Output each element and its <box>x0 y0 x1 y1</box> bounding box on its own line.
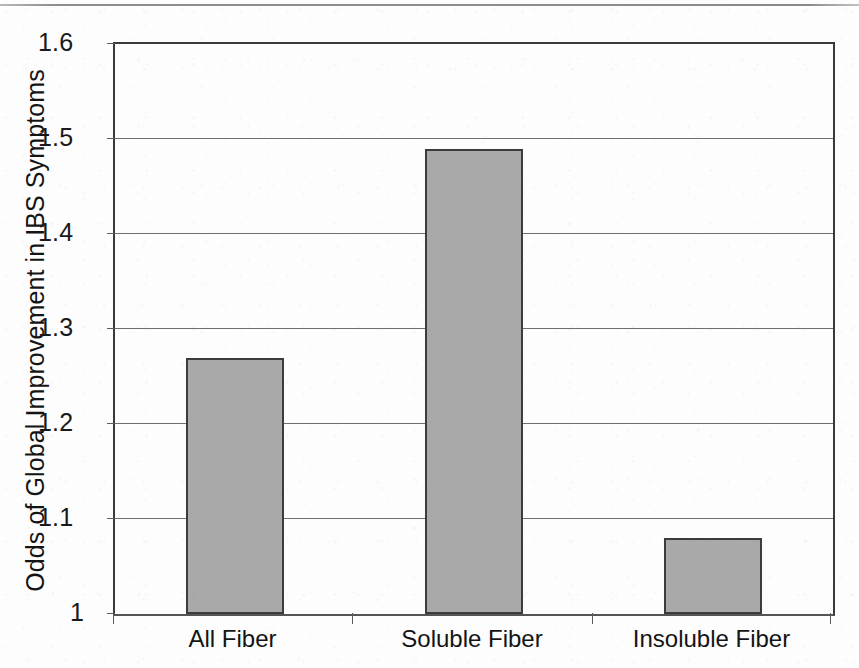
y-tick-mark-1-6 <box>107 43 115 44</box>
gridline-1-5 <box>115 138 833 139</box>
y-tick-label-1-1: 1.1 <box>38 505 73 530</box>
y-tick-mark-1-2 <box>107 423 115 424</box>
y-tick-mark-1-5 <box>107 138 115 139</box>
x-tick-mark-2 <box>592 613 593 624</box>
bar-all-fiber[interactable] <box>186 358 284 615</box>
y-tick-label-1-5: 1.5 <box>38 125 73 150</box>
x-tick-mark-end <box>830 613 831 624</box>
y-tick-label-1: 1 <box>70 600 84 625</box>
y-tick-mark-1-1 <box>107 518 115 519</box>
y-tick-mark-1-3 <box>107 328 115 329</box>
plot-area <box>113 42 835 616</box>
x-tick-mark-start <box>113 613 114 624</box>
y-tick-label-1-2: 1.2 <box>38 410 73 435</box>
y-tick-label-1-3: 1.3 <box>38 315 73 340</box>
y-tick-mark-1-4 <box>107 233 115 234</box>
x-tick-mark-1 <box>352 613 353 624</box>
y-tick-label-1-6: 1.6 <box>38 30 73 55</box>
bar-chart: Odds of Global Improvement in IBS Sympto… <box>0 0 859 668</box>
x-axis-label-all-fiber: All Fiber <box>113 627 352 651</box>
y-tick-label-1-4: 1.4 <box>38 220 73 245</box>
bar-soluble-fiber[interactable] <box>425 149 523 615</box>
x-axis-label-insoluble-fiber: Insoluble Fiber <box>592 627 831 651</box>
x-axis-label-soluble-fiber: Soluble Fiber <box>352 627 592 651</box>
bar-insoluble-fiber[interactable] <box>664 538 762 614</box>
